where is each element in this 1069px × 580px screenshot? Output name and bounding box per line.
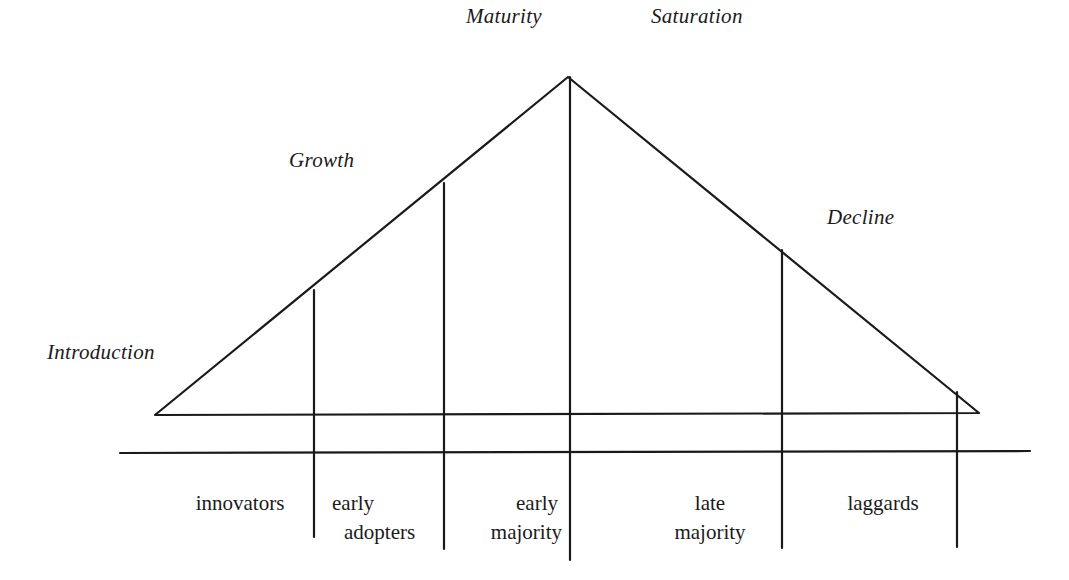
category-early-adopters-line1: early bbox=[330, 489, 442, 518]
category-early-adopters: early adopters bbox=[330, 489, 442, 547]
category-axis-line bbox=[120, 451, 1030, 453]
category-late-majority-line1: late bbox=[650, 489, 770, 518]
stage-introduction: Introduction bbox=[47, 340, 155, 365]
category-early-majority-line2: majority bbox=[446, 518, 566, 547]
category-laggards: laggards bbox=[828, 489, 938, 518]
life-cycle-triangle bbox=[155, 77, 979, 415]
life-cycle-diagram: Introduction Growth Maturity Saturation … bbox=[0, 0, 1069, 580]
category-late-majority-line2: majority bbox=[650, 518, 770, 547]
category-innovators-line1: innovators bbox=[176, 489, 304, 518]
category-early-majority-line1: early bbox=[446, 489, 566, 518]
category-early-adopters-line2: adopters bbox=[330, 518, 442, 547]
stage-growth: Growth bbox=[289, 148, 354, 173]
category-early-majority: early majority bbox=[446, 489, 566, 547]
stage-saturation: Saturation bbox=[651, 4, 743, 29]
stage-maturity: Maturity bbox=[466, 4, 542, 29]
category-laggards-line1: laggards bbox=[828, 489, 938, 518]
stage-decline: Decline bbox=[827, 205, 894, 230]
category-innovators: innovators bbox=[176, 489, 304, 518]
category-late-majority: late majority bbox=[650, 489, 770, 547]
